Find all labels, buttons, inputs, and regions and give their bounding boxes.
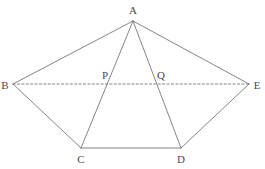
segment-BA	[13, 21, 133, 84]
segment-BC	[13, 84, 81, 148]
geometry-figure: ABCDEPQ	[0, 0, 265, 169]
vertex-label-a: A	[129, 5, 137, 16]
vertex-label-c: C	[77, 154, 84, 165]
vertex-label-p: P	[102, 70, 108, 81]
vertex-label-d: D	[177, 154, 185, 165]
geometry-canvas	[0, 0, 265, 169]
vertex-label-b: B	[1, 80, 8, 91]
segment-AE	[133, 21, 249, 84]
segment-AD	[133, 21, 181, 148]
vertex-label-e: E	[254, 80, 261, 91]
vertex-label-q: Q	[157, 70, 165, 81]
segment-DE	[181, 84, 249, 148]
segment-AC	[81, 21, 133, 148]
segments-group	[13, 21, 249, 148]
